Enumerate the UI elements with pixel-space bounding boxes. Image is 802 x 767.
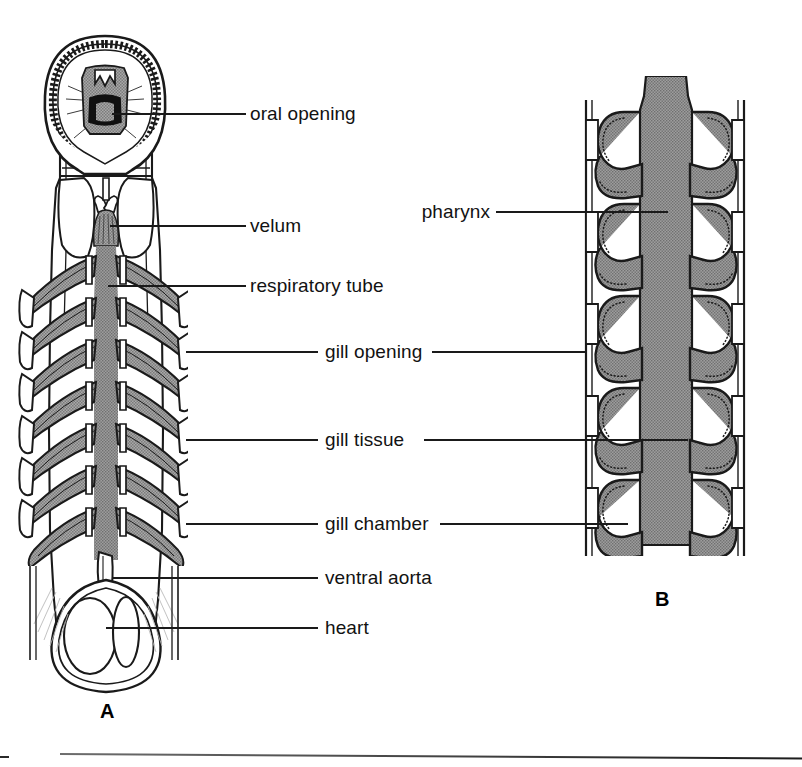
label-gill-opening: gill opening [325,342,422,361]
oral-hood [45,36,165,174]
label-respiratory-tube: respiratory tube [250,276,384,295]
pharynx-structure [640,76,692,545]
heart-structure [51,580,160,692]
label-velum: velum [250,216,301,235]
panel-b-drawing [586,76,744,560]
panel-a-caption: A [100,700,115,723]
figure-canvas: oral opening velum respiratory tube gill… [0,0,802,767]
label-gill-tissue: gill tissue [325,430,404,449]
label-oral-opening: oral opening [250,104,356,123]
label-gill-chamber: gill chamber [325,514,429,533]
gill-basket [19,246,192,568]
label-ventral-aorta: ventral aorta [325,568,432,587]
oral-opening-structure [89,95,121,125]
footer-rule-tick [0,756,9,758]
panel-b-caption: B [655,588,670,611]
label-pharynx: pharynx [330,202,490,221]
anatomy-illustration [0,0,802,767]
velum-structure [94,196,119,246]
label-heart: heart [325,618,369,637]
panel-a-drawing [19,36,192,692]
